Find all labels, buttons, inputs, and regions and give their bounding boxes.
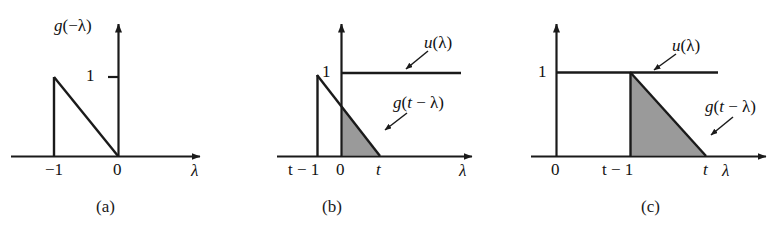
panel-b-x-tick-label-t: t: [376, 160, 381, 180]
panel-c-u-leader-arrow: [654, 54, 676, 70]
panel-b-u-leader-arrow: [406, 51, 428, 69]
panel-c-g-leader-arrow: [711, 117, 733, 135]
panel-b-x-axis-label: λ: [459, 161, 466, 181]
panel-c-x-axis-label: λ: [722, 161, 729, 181]
panel-c-label-u: u(λ): [672, 36, 700, 56]
panel-c: [531, 24, 766, 157]
panel-b-caption: (b): [322, 197, 342, 217]
panel-c-x-tick-label-0: 0: [551, 160, 560, 180]
panel-a-ramp-hypotenuse: [54, 77, 118, 156]
panel-a-x-tick-label-minus1: −1: [45, 160, 63, 180]
panel-b-y-tick-label-1: 1: [322, 62, 331, 82]
panel-a-x-tick-label-0: 0: [113, 160, 122, 180]
panel-b-g-leader-arrow: [385, 113, 407, 130]
panel-b-label-u: u(λ): [424, 33, 452, 53]
panel-c-y-tick-label-1: 1: [538, 62, 547, 82]
panel-a: [11, 24, 200, 157]
panel-a-caption: (a): [96, 197, 115, 217]
figure-canvas: [0, 0, 781, 236]
panel-b-x-tick-label-0: 0: [336, 160, 345, 180]
panel-c-label-g: g(t − λ): [705, 97, 756, 117]
panel-a-y-axis-label: g(−λ): [54, 16, 92, 36]
figure-convolution: g(−λ) 1 −1 0 λ (a) 1 u(λ) g(t − λ) t − 1…: [0, 0, 781, 236]
panel-b-label-g: g(t − λ): [393, 93, 444, 113]
panel-c-x-tick-label-tminus1: t − 1: [602, 160, 633, 180]
panel-a-y-tick-label-1: 1: [86, 66, 95, 86]
panel-c-x-tick-label-t: t: [703, 160, 708, 180]
panel-a-x-axis-label: λ: [191, 161, 198, 181]
panel-c-caption: (c): [641, 197, 660, 217]
panel-b-x-tick-label-tminus1: t − 1: [288, 160, 319, 180]
